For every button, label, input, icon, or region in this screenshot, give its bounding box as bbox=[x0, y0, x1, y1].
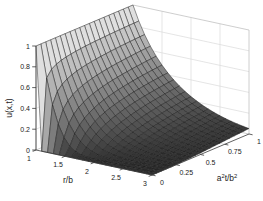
z-tick-label: 0 bbox=[26, 147, 30, 154]
y-tick-label: 0.25 bbox=[179, 169, 193, 176]
z-axis-label: u(x,t) bbox=[4, 98, 14, 118]
x-axis-label: r/b bbox=[63, 175, 73, 185]
3d-surface-canvas: 00.20.40.60.8111.522.5300.250.50.751r/ba… bbox=[0, 0, 263, 201]
surface-plot-figure: 00.20.40.60.8111.522.5300.250.50.751r/ba… bbox=[0, 0, 263, 201]
y-tick-label: 0.5 bbox=[206, 159, 216, 166]
z-tick-label: 0.2 bbox=[20, 126, 30, 133]
x-tick-label: 2.5 bbox=[111, 174, 121, 181]
y-tick-label: 0.75 bbox=[228, 148, 242, 155]
y-axis-label: a2t/b2 bbox=[217, 173, 238, 183]
y-tick-label: 1 bbox=[257, 138, 261, 145]
x-tick-label: 1 bbox=[27, 155, 31, 162]
x-tick-label: 1.5 bbox=[53, 161, 63, 168]
z-tick-label: 1 bbox=[26, 43, 30, 50]
z-tick-label: 0.4 bbox=[20, 105, 30, 112]
x-tick-label: 2 bbox=[85, 168, 89, 175]
y-tick-label: 0 bbox=[160, 179, 164, 186]
z-tick-label: 0.8 bbox=[20, 63, 30, 70]
z-tick-label: 0.6 bbox=[20, 84, 30, 91]
x-tick-label: 3 bbox=[143, 180, 147, 187]
